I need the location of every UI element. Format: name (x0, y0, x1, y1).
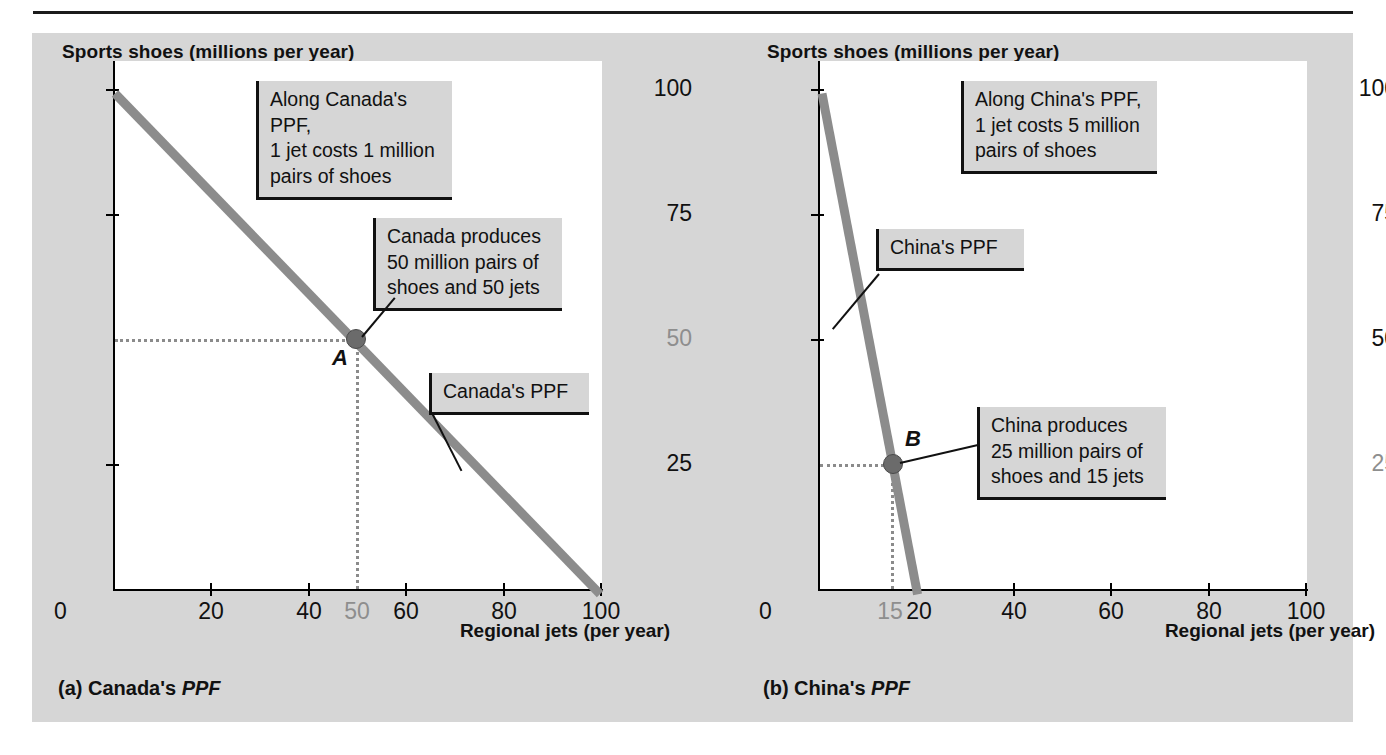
callout-production-point-china: China produces 25 million pairs of shoes… (977, 407, 1166, 500)
caption-china-text: (b) China's (763, 677, 871, 699)
caption-china: (b) China's PPF (763, 677, 910, 700)
x-tick-40-china (1013, 583, 1015, 596)
x-axis-line-china (818, 589, 1308, 591)
x-axis-title-canada: Regional jets (per year) (460, 620, 670, 642)
figure-root: Sports shoes (millions per year) 100 75 … (0, 0, 1386, 755)
y-label-50-china: 50 (1341, 325, 1386, 352)
callout-curve-label-canada: Canada's PPF (429, 373, 589, 415)
x-tick-80-china (1208, 583, 1210, 596)
guide-horizontal-china (820, 464, 891, 467)
chart-canada: Sports shoes (millions per year) 100 75 … (32, 33, 692, 722)
x-tick-80-canada (503, 583, 505, 596)
caption-canada-italic: PPF (182, 677, 221, 699)
y-axis-line-canada (113, 61, 115, 591)
y-tick-50-china (811, 339, 824, 341)
guide-vertical-canada (356, 339, 359, 589)
x-axis-line-canada (113, 589, 603, 591)
point-marker-a (346, 329, 366, 349)
y-label-75-china: 75 (1341, 200, 1386, 227)
caption-canada: (a) Canada's PPF (58, 677, 221, 700)
y-axis-title-china: Sports shoes (millions per year) (767, 41, 1060, 63)
x-tick-60-china (1110, 583, 1112, 596)
x-label-60-canada: 60 (376, 598, 436, 625)
y-tick-75-china (811, 214, 824, 216)
y-axis-line-china (818, 61, 820, 591)
y-tick-25-canada (106, 464, 119, 466)
callout-production-point-canada: Canada produces 50 million pairs of shoe… (373, 218, 562, 311)
y-label-100-canada: 100 (636, 75, 692, 102)
point-label-b: B (905, 426, 921, 452)
caption-china-italic: PPF (871, 677, 910, 699)
y-label-75-canada: 75 (636, 200, 692, 227)
y-label-25-canada: 25 (636, 450, 692, 477)
callout-opportunity-cost-china: Along China's PPF, 1 jet costs 5 million… (961, 81, 1157, 174)
y-axis-title-canada: Sports shoes (millions per year) (62, 41, 355, 63)
y-tick-100-china (811, 89, 824, 91)
caption-canada-text: (a) Canada's (58, 677, 182, 699)
guide-horizontal-canada (115, 339, 356, 342)
y-label-100-china: 100 (1341, 75, 1386, 102)
x-label-0-china: 0 (759, 598, 772, 625)
x-label-40-china: 40 (984, 598, 1044, 625)
x-tick-60-canada (405, 583, 407, 596)
y-tick-75-canada (106, 214, 119, 216)
y-label-25-china: 25 (1341, 450, 1386, 477)
callout-opportunity-cost-canada: Along Canada's PPF, 1 jet costs 1 millio… (256, 81, 452, 200)
y-label-50-canada: 50 (636, 325, 692, 352)
x-label-20-china: 20 (889, 598, 949, 625)
figure-panel: Sports shoes (millions per year) 100 75 … (32, 33, 1353, 722)
chart-china: Sports shoes (millions per year) 100 75 … (737, 33, 1386, 722)
x-tick-100-china (1305, 583, 1307, 596)
x-label-0-canada: 0 (54, 598, 67, 625)
point-label-a: A (332, 345, 348, 371)
x-axis-title-china: Regional jets (per year) (1165, 620, 1375, 642)
x-label-60-china: 60 (1081, 598, 1141, 625)
x-tick-20-canada (210, 583, 212, 596)
x-label-20-canada: 20 (181, 598, 241, 625)
x-tick-40-canada (308, 583, 310, 596)
callout-curve-label-china: China's PPF (876, 229, 1024, 271)
top-divider-rule (33, 11, 1353, 14)
